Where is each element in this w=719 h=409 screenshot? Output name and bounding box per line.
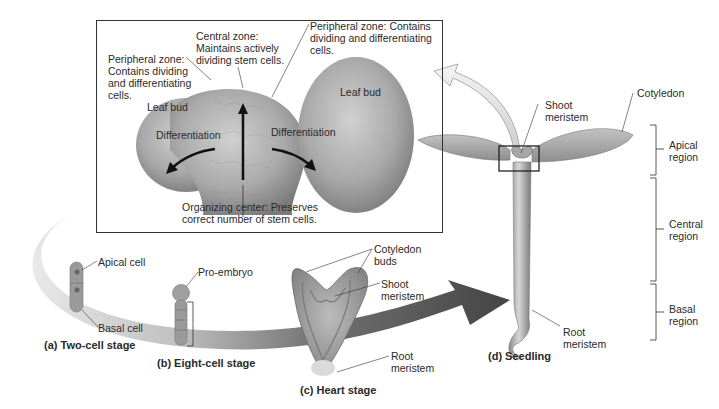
central-zone-label: Central zone: Maintains actively dividin… xyxy=(196,30,284,66)
heart-root-meristem-label: Root meristem xyxy=(391,350,434,374)
peripheral-zone-left-label: Peripheral zone: Contains dividing and d… xyxy=(108,53,191,101)
peripheral-zone-right-label: Peripheral zone: Contains dividing and d… xyxy=(310,20,432,56)
region-brackets xyxy=(650,125,664,340)
seedling-shoot-meristem-label: Shoot meristem xyxy=(545,99,588,123)
seedling-caption: (d) Seedling xyxy=(488,350,551,362)
differentiation-right-label: Differentiation xyxy=(271,126,336,138)
seedling-root-meristem-label: Root meristem xyxy=(563,326,606,350)
leaf-bud-left-label: Leaf bud xyxy=(147,101,188,113)
central-region-label: Central region xyxy=(669,218,703,242)
differentiation-left-label: Differentiation xyxy=(156,129,221,141)
apical-region-label: Apical region xyxy=(669,139,698,163)
cotyledon-label: Cotyledon xyxy=(637,87,684,99)
heart-shoot-meristem-label: Shoot meristem xyxy=(381,278,424,302)
cotyledon-buds-label: Cotyledon buds xyxy=(374,243,421,267)
seedling xyxy=(418,93,633,360)
basal-cell-label: Basal cell xyxy=(98,322,143,334)
apical-cell-label: Apical cell xyxy=(98,256,145,268)
organizing-center-label: Organizing center: Preserves correct num… xyxy=(182,201,318,225)
suspensor-label: Suspensor xyxy=(203,318,260,330)
two-cell-stage-caption: (a) Two-cell stage xyxy=(44,339,135,351)
pro-embryo-label: Pro-embryo xyxy=(198,266,253,278)
basal-region-label: Basal region xyxy=(669,303,698,327)
heart-stage-caption: (c) Heart stage xyxy=(300,384,376,396)
eight-cell-stage-caption: (b) Eight-cell stage xyxy=(157,357,255,369)
heart-stage-embryo xyxy=(292,249,389,376)
plant-development-diagram: Central zone: Maintains actively dividin… xyxy=(0,0,719,409)
leaf-bud-right-label: Leaf bud xyxy=(340,86,381,98)
